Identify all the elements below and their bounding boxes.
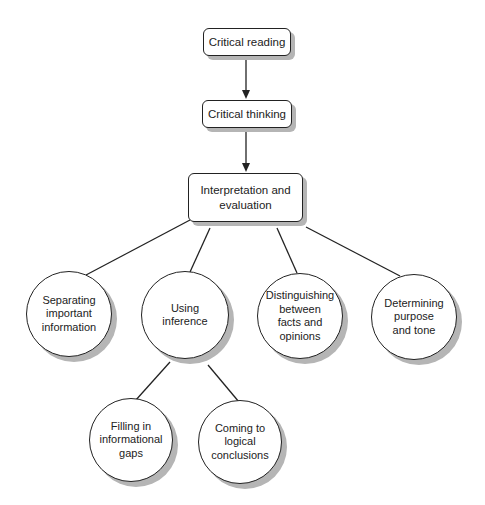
- node-label: Coming to logical conclusions: [211, 422, 268, 463]
- node-label: Separating important information: [42, 294, 96, 335]
- node-label: Interpretation and evaluation: [200, 183, 290, 213]
- node-using-inference: Using inference: [141, 271, 229, 359]
- node-label: Determining purpose and tone: [384, 297, 443, 338]
- line-to-separating: [86, 220, 190, 275]
- node-interpretation-evaluation: Interpretation and evaluation: [188, 173, 303, 222]
- arrowhead-icon: [242, 163, 250, 172]
- node-separating-important-information: Separating important information: [26, 271, 112, 357]
- line-to-determining: [306, 227, 400, 276]
- node-label: Distinguishing between facts and opinion…: [266, 289, 334, 343]
- arrowhead-icon: [242, 90, 250, 99]
- node-label: Using inference: [162, 302, 207, 329]
- node-label: Filling in informational gaps: [100, 420, 163, 461]
- node-critical-reading: Critical reading: [203, 28, 291, 56]
- line-to-filling: [135, 362, 170, 401]
- line-to-using-inference: [190, 228, 210, 272]
- line-to-coming: [208, 365, 239, 402]
- node-label: Critical thinking: [208, 107, 286, 122]
- node-coming-to-logical-conclusions: Coming to logical conclusions: [198, 400, 282, 484]
- node-distinguishing-facts-opinions: Distinguishing between facts and opinion…: [257, 273, 343, 359]
- node-determining-purpose-tone: Determining purpose and tone: [371, 274, 457, 360]
- node-critical-thinking: Critical thinking: [202, 100, 292, 128]
- line-to-distinguishing: [277, 228, 297, 273]
- node-filling-informational-gaps: Filling in informational gaps: [89, 398, 173, 482]
- node-label: Critical reading: [209, 35, 286, 50]
